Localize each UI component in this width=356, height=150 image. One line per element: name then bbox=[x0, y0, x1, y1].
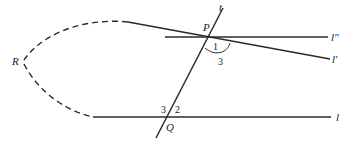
label-R: R bbox=[11, 55, 19, 67]
label-P: P bbox=[202, 21, 210, 33]
label-l-prime: l′ bbox=[332, 53, 338, 65]
dashed-arc-lower bbox=[24, 64, 93, 117]
label-t: t bbox=[219, 1, 223, 13]
angle-label-2: 2 bbox=[175, 104, 180, 115]
label-Q: Q bbox=[166, 121, 174, 133]
line-t bbox=[156, 8, 223, 138]
line-l-prime bbox=[128, 22, 330, 59]
angle-label-3-at-Q: 3 bbox=[161, 104, 166, 115]
angle-label-3-at-P: 3 bbox=[218, 56, 223, 67]
geometry-diagram: t P l″ l′ l R Q 1 3 3 2 bbox=[0, 0, 356, 150]
label-l: l bbox=[336, 111, 339, 123]
angle-label-1: 1 bbox=[213, 41, 218, 52]
dashed-arc-upper bbox=[24, 21, 128, 60]
label-l-double-prime: l″ bbox=[331, 31, 339, 43]
